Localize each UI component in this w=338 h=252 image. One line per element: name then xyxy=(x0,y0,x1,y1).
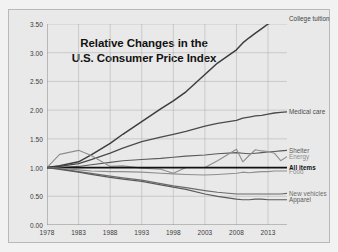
x-tick-label: 1978 xyxy=(40,229,55,236)
y-tick-label: 3.50 xyxy=(30,21,43,28)
x-tick-label: 2013 xyxy=(261,229,276,236)
x-tick-label: 2008 xyxy=(229,229,244,236)
series-line xyxy=(47,24,287,168)
y-tick-label: 0.50 xyxy=(30,193,43,200)
x-tick-label: 2003 xyxy=(197,229,212,236)
y-tick-label: 0.00 xyxy=(30,222,43,229)
y-tick-label: 1.00 xyxy=(30,164,43,171)
chart-figure: Relative Changes in the U.S. Consumer Pr… xyxy=(0,0,338,252)
y-tick-label: 1.50 xyxy=(30,135,43,142)
series-label: Energy xyxy=(289,153,309,160)
series-line xyxy=(47,149,287,173)
series-label: Apparel xyxy=(289,196,311,203)
x-tick-label: 1998 xyxy=(166,229,181,236)
data-series-group xyxy=(47,24,287,200)
x-tick-label: 1993 xyxy=(134,229,149,236)
x-tick-label: 1988 xyxy=(103,229,118,236)
axis-lines xyxy=(47,24,287,225)
series-label: Food xyxy=(289,168,304,175)
chart-frame: Relative Changes in the U.S. Consumer Pr… xyxy=(8,9,330,243)
x-tick-label: 1983 xyxy=(71,229,86,236)
chart-canvas xyxy=(47,24,287,225)
gridlines xyxy=(47,24,287,225)
y-tick-label: 2.50 xyxy=(30,78,43,85)
series-label: College tuition xyxy=(289,15,330,22)
y-tick-label: 2.00 xyxy=(30,107,43,114)
plot-area: 0.000.501.001.502.002.503.003.50 1978198… xyxy=(47,24,287,225)
series-label: Medical care xyxy=(289,108,325,115)
y-tick-label: 3.00 xyxy=(30,49,43,56)
